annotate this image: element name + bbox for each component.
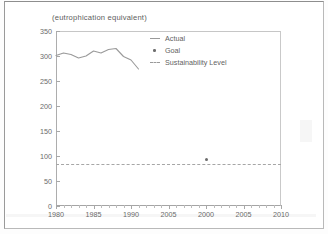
chart-figure: (eutrophication equivalent) 350 300 250 …	[0, 0, 328, 234]
scanned-page: (eutrophication equivalent) 350 300 250 …	[0, 0, 328, 234]
actual-series	[0, 0, 328, 234]
